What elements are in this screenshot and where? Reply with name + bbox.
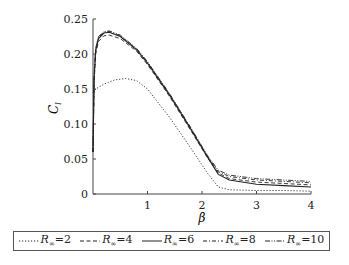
x-axis-label: β bbox=[198, 211, 206, 225]
lift-coefficient-chart: 00.050.100.150.200.251234 Cl β bbox=[0, 0, 349, 230]
y-tick-label: 0.10 bbox=[64, 118, 89, 131]
legend-label: R∞=10 bbox=[287, 233, 324, 248]
legend-label: R∞=8 bbox=[225, 233, 255, 248]
series-line-1 bbox=[93, 79, 311, 192]
legend-line-swatch bbox=[80, 238, 100, 244]
legend-label: R∞=4 bbox=[102, 233, 132, 248]
x-tick-label: 1 bbox=[144, 199, 151, 212]
y-tick-label: 0.05 bbox=[64, 153, 89, 166]
series-line-5 bbox=[93, 31, 311, 182]
legend-line-swatch bbox=[142, 238, 162, 244]
series-line-4 bbox=[93, 32, 311, 183]
legend-label: R∞=2 bbox=[41, 233, 71, 248]
legend-label: R∞=6 bbox=[164, 233, 194, 248]
legend-item: R∞=4 bbox=[80, 233, 132, 248]
legend-line-swatch bbox=[265, 238, 285, 244]
series-line-2 bbox=[93, 35, 311, 185]
x-tick-label: 3 bbox=[253, 199, 260, 212]
x-tick-label: 4 bbox=[308, 199, 315, 212]
series-group bbox=[93, 31, 311, 191]
legend-line-swatch bbox=[203, 238, 223, 244]
legend-item: R∞=6 bbox=[142, 233, 194, 248]
y-tick-label: 0.20 bbox=[64, 48, 89, 61]
series-line-3 bbox=[93, 32, 311, 187]
legend-item: R∞=8 bbox=[203, 233, 255, 248]
legend: R∞=2R∞=4R∞=6R∞=8R∞=10 bbox=[13, 231, 330, 251]
y-tick-label: 0 bbox=[81, 188, 88, 201]
legend-item: R∞=2 bbox=[19, 233, 71, 248]
y-tick-label: 0.25 bbox=[64, 13, 89, 26]
legend-item: R∞=10 bbox=[265, 233, 324, 248]
axes: 00.050.100.150.200.251234 bbox=[64, 13, 315, 212]
y-axis-label: Cl bbox=[47, 102, 63, 114]
y-tick-label: 0.15 bbox=[64, 83, 89, 96]
legend-line-swatch bbox=[19, 238, 39, 244]
